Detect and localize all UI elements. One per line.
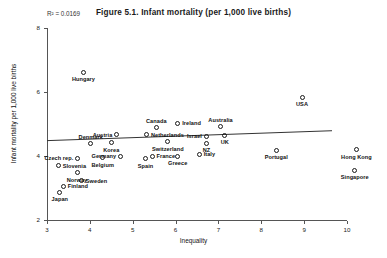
scatter-point-label: Slovenia xyxy=(63,163,86,169)
x-tick-label: 10 xyxy=(335,226,359,233)
scatter-point-label: Switzerland xyxy=(152,146,184,152)
x-tick-mark xyxy=(347,221,348,224)
figure-container: Figure 5.1. Infant mortality (per 1,000 … xyxy=(0,0,387,258)
y-tick-label: 4 xyxy=(22,152,40,159)
scatter-point-label: Spain xyxy=(138,163,154,169)
scatter-point xyxy=(144,132,149,137)
y-tick-mark xyxy=(44,92,47,93)
scatter-point xyxy=(197,152,202,157)
scatter-point-label: Japan xyxy=(52,196,68,202)
x-tick-label: 6 xyxy=(164,226,188,233)
scatter-point-label: Portugal xyxy=(265,154,288,160)
scatter-point xyxy=(143,156,148,161)
scatter-point xyxy=(150,154,155,159)
x-tick-mark xyxy=(133,221,134,224)
y-tick-label: 6 xyxy=(22,88,40,95)
scatter-point-label: Canada xyxy=(146,118,167,124)
x-tick-label: 5 xyxy=(121,226,145,233)
scatter-point xyxy=(175,154,180,159)
scatter-point xyxy=(352,168,357,173)
scatter-point-label: Singapore xyxy=(341,174,369,180)
x-tick-mark xyxy=(261,221,262,224)
scatter-point xyxy=(75,156,80,161)
scatter-point-label: Netherlands xyxy=(151,132,184,138)
scatter-point xyxy=(109,140,114,145)
scatter-point-label: Hong Kong xyxy=(341,154,372,160)
scatter-point-label: Czech rep. xyxy=(44,155,73,161)
scatter-point xyxy=(154,125,159,130)
scatter-point xyxy=(88,141,93,146)
x-tick-mark xyxy=(218,221,219,224)
scatter-point xyxy=(100,155,105,160)
x-tick-label: 4 xyxy=(78,226,102,233)
r-squared-annotation: R² = 0.0169 xyxy=(47,10,80,17)
scatter-point xyxy=(204,134,209,139)
scatter-point-label: Italy xyxy=(204,151,215,157)
x-tick-label: 7 xyxy=(206,226,230,233)
scatter-point xyxy=(354,147,359,152)
x-tick-mark xyxy=(90,221,91,224)
scatter-point xyxy=(274,148,279,153)
scatter-point xyxy=(204,141,209,146)
scatter-point xyxy=(165,139,170,144)
x-tick-mark xyxy=(304,221,305,224)
scatter-point-label: Hungary xyxy=(72,76,95,82)
x-tick-label: 9 xyxy=(292,226,316,233)
scatter-point xyxy=(222,133,227,138)
y-axis-line xyxy=(47,28,48,220)
scatter-point-label: USA xyxy=(296,101,308,107)
scatter-point-label: Sweden xyxy=(86,178,107,184)
y-axis-title: Infant mortality per 1,000 live births xyxy=(10,39,17,189)
scatter-point xyxy=(56,163,61,168)
scatter-point-label: UK xyxy=(221,139,229,145)
scatter-point xyxy=(300,95,305,100)
scatter-point-label: Norway xyxy=(67,177,88,183)
scatter-point-label: Greece xyxy=(168,160,187,166)
y-tick-mark xyxy=(44,28,47,29)
scatter-point-label: France xyxy=(157,153,176,159)
scatter-point-label: Israel xyxy=(187,133,202,139)
x-tick-mark xyxy=(176,221,177,224)
scatter-point-label: Denmark xyxy=(79,134,103,140)
scatter-point-label: Ireland xyxy=(182,120,201,126)
scatter-point-label: Korea xyxy=(103,147,119,153)
x-axis-line xyxy=(47,220,347,221)
r-squared-value: R² = 0.0169 xyxy=(47,10,80,17)
scatter-point-label: Australia xyxy=(208,117,232,123)
x-tick-label: 8 xyxy=(249,226,273,233)
scatter-point xyxy=(218,124,223,129)
scatter-point xyxy=(57,190,62,195)
y-tick-label: 8 xyxy=(22,24,40,31)
scatter-point xyxy=(118,154,123,159)
scatter-point xyxy=(114,132,119,137)
scatter-point-label: Belgium xyxy=(91,162,113,168)
y-tick-label: 2 xyxy=(22,216,40,223)
x-axis-title: Inequality xyxy=(0,237,387,244)
scatter-point-label: Finland xyxy=(68,183,88,189)
scatter-point xyxy=(61,184,66,189)
y-tick-mark xyxy=(44,220,47,221)
scatter-point xyxy=(81,70,86,75)
x-tick-label: 3 xyxy=(35,226,59,233)
scatter-point xyxy=(75,170,80,175)
x-tick-mark xyxy=(47,221,48,224)
scatter-point xyxy=(175,121,180,126)
